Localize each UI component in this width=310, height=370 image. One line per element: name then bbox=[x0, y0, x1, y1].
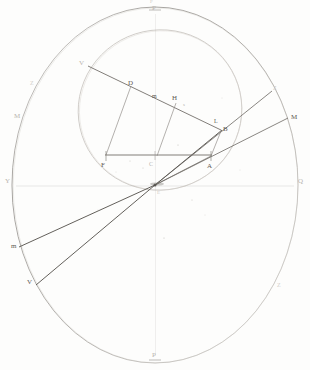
radial-rays-group bbox=[19, 91, 288, 285]
paper-speckle-5 bbox=[240, 170, 241, 171]
point-label-P-top: P bbox=[152, 5, 156, 12]
paper-speckle-1 bbox=[192, 200, 193, 201]
drop-D-to-F bbox=[106, 86, 131, 155]
point-label-P-bottom: P bbox=[152, 352, 156, 359]
point-label-Z-upper-right: Z bbox=[273, 85, 277, 91]
point-label-M-right: M bbox=[291, 114, 297, 121]
point-label-V-lower: V bbox=[27, 279, 32, 286]
point-label-H-point: H bbox=[172, 95, 177, 102]
point-label-m-lower: m bbox=[11, 243, 16, 250]
ray-center-to-m-lower bbox=[19, 185, 155, 247]
paper-speckle-3 bbox=[163, 237, 164, 238]
point-label-P-top-ghost: P bbox=[150, 0, 153, 4]
paper-speckle-0 bbox=[177, 144, 178, 145]
paper-speckle-8 bbox=[143, 168, 144, 169]
ray-center-to-A bbox=[155, 156, 211, 185]
point-label-E-center: E bbox=[157, 190, 160, 195]
point-label-V-upper: V bbox=[79, 60, 84, 67]
point-label-Q-right: Q bbox=[298, 178, 303, 185]
point-label-F-point: F bbox=[101, 162, 105, 169]
paper-speckle-2 bbox=[205, 215, 206, 216]
point-label-Y-left: Y bbox=[5, 178, 10, 185]
ray-center-to-V-lower bbox=[36, 185, 155, 285]
figure-canvas: PPPYQMMZZVDmHsLBZFCAEmV bbox=[0, 0, 310, 370]
point-label-Z-lower-right: Z bbox=[277, 282, 281, 288]
center-ink-blot bbox=[150, 182, 164, 185]
paper-speckle-9 bbox=[116, 172, 117, 173]
paper-speckle-4 bbox=[130, 161, 131, 162]
point-label-s-point: s bbox=[183, 102, 185, 107]
point-label-D-point: D bbox=[128, 80, 133, 87]
paper-speckle-6 bbox=[98, 210, 99, 211]
drop-H-to-C bbox=[157, 103, 176, 156]
point-label-A-point: A bbox=[207, 163, 212, 170]
point-label-Z-upper-left: Z bbox=[30, 80, 34, 86]
paper-speckle-7 bbox=[222, 98, 223, 99]
point-label-M-left: M bbox=[14, 113, 20, 120]
point-label-m-mid: m bbox=[152, 93, 157, 99]
point-label-B-point: B bbox=[223, 126, 228, 133]
point-label-L-point: L bbox=[214, 118, 218, 124]
ray-center-to-B bbox=[155, 130, 222, 185]
diagram-svg bbox=[0, 0, 310, 370]
point-label-C-center: C bbox=[149, 161, 153, 167]
